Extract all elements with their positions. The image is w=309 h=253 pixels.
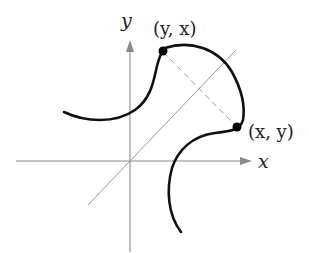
point-x-y-label: (x, y) — [248, 121, 294, 142]
point-x-y — [233, 123, 242, 132]
point-y-x — [159, 47, 168, 56]
x-axis-arrow-icon — [240, 157, 252, 165]
point-y-x-label: (y, x) — [153, 18, 196, 39]
curve — [64, 45, 244, 232]
y-axis-arrow-icon — [126, 40, 134, 52]
x-axis-label: x — [258, 150, 269, 172]
diagonal-line-y-equals-x — [88, 50, 236, 205]
reflection-diagram: y x (y, x) (x, y) — [0, 0, 309, 253]
y-axis-label: y — [120, 9, 132, 31]
